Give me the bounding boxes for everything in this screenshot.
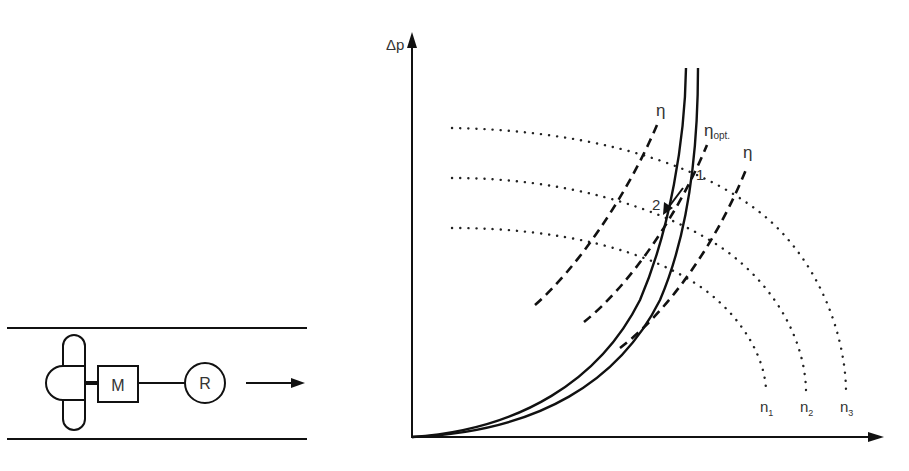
point-1-label: 1 [696,166,704,183]
efficiency-label-opt: ηopt. [704,121,730,141]
flow-arrow-icon [246,378,305,388]
regulator-label: R [199,375,211,392]
y-axis-label: Δp [386,36,404,53]
speed-curve-n1 [452,228,766,390]
diagram-canvas: M R Δp [0,0,909,471]
efficiency-label-right: η [743,143,752,162]
speed-curve-n2 [452,178,806,390]
system-curves [412,68,698,437]
motor-label: M [111,377,124,394]
fan-characteristic-graph: Δp 1 2 η ηopt. η n1 n2 [386,32,884,442]
efficiency-curves [535,125,747,348]
efficiency-curve-left [535,125,657,305]
system-curve-1 [412,68,686,437]
fan-icon [46,335,85,430]
x-axis [411,432,884,442]
speed-label-n2: n2 [800,398,813,418]
point-2-label: 2 [652,196,660,213]
fan-duct-schematic: M R [7,328,307,439]
efficiency-label-left: η [656,101,665,120]
system-curve-2 [412,68,698,437]
speed-label-n3: n3 [840,398,853,418]
speed-curves [452,128,846,390]
efficiency-curve-right [620,167,747,348]
speed-label-n1: n1 [760,398,773,418]
speed-curve-n3 [452,128,846,390]
y-axis [407,32,417,437]
